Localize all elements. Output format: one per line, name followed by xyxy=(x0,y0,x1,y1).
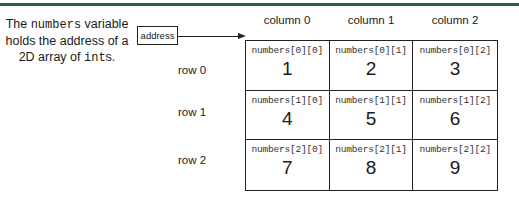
array-cell: numbers[1][0]4 xyxy=(246,91,330,141)
column-label-2: column 2 xyxy=(413,14,497,26)
column-label-1: column 1 xyxy=(329,14,413,26)
cell-ref: numbers[1][2] xyxy=(413,95,497,106)
cell-ref: numbers[2][1] xyxy=(330,144,413,155)
array-cell: numbers[2][2]9 xyxy=(413,140,497,190)
cell-value: 3 xyxy=(413,57,497,81)
array-cell: numbers[2][1]8 xyxy=(330,140,414,190)
caption-text-1: The xyxy=(6,17,31,31)
array-cell: numbers[0][2]3 xyxy=(413,41,497,91)
cell-ref: numbers[0][2] xyxy=(413,45,497,56)
caption-type-name: int xyxy=(84,51,106,65)
cell-value: 8 xyxy=(330,156,413,180)
cell-value: 5 xyxy=(330,107,413,131)
cell-value: 2 xyxy=(330,57,413,81)
array-cell: numbers[0][1]2 xyxy=(330,41,414,91)
pointer-arrow-line xyxy=(178,36,240,37)
array-cell: numbers[2][0]7 xyxy=(246,140,330,190)
cell-value: 7 xyxy=(246,156,329,180)
cell-ref: numbers[1][1] xyxy=(330,95,413,106)
cell-ref: numbers[0][1] xyxy=(330,45,413,56)
column-label-0: column 0 xyxy=(245,14,329,26)
address-box: address xyxy=(137,26,178,45)
cell-ref: numbers[2][0] xyxy=(246,144,329,155)
cell-value: 1 xyxy=(246,57,329,81)
array-cell: numbers[1][1]5 xyxy=(330,91,414,141)
caption-var-name: numbers xyxy=(31,18,81,32)
caption-text-3: s. xyxy=(106,50,116,64)
row-label-2: row 2 xyxy=(178,154,206,166)
arrow-head-icon xyxy=(238,33,246,39)
array-grid: numbers[0][0]1 numbers[0][1]2 numbers[0]… xyxy=(245,40,498,191)
array-cell: numbers[0][0]1 xyxy=(246,41,330,91)
cell-value: 4 xyxy=(246,107,329,131)
cell-ref: numbers[2][2] xyxy=(413,144,497,155)
top-rule xyxy=(0,3,519,6)
caption: The numbers variable holds the address o… xyxy=(4,16,130,66)
row-label-0: row 0 xyxy=(178,64,206,76)
cell-value: 9 xyxy=(413,156,497,180)
cell-ref: numbers[0][0] xyxy=(246,45,329,56)
cell-value: 6 xyxy=(413,107,497,131)
array-cell: numbers[1][2]6 xyxy=(413,91,497,141)
cell-ref: numbers[1][0] xyxy=(246,95,329,106)
row-label-1: row 1 xyxy=(178,106,206,118)
